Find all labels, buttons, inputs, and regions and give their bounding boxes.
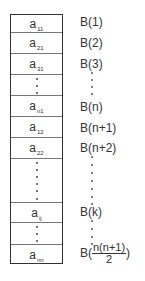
cell-subscript: 11 — [37, 26, 43, 32]
vertical-ellipsis-icon — [36, 161, 38, 201]
cell-an1: an1 — [11, 96, 62, 117]
cell-subscript: 22 — [37, 150, 44, 156]
cell-ellipsis — [11, 75, 62, 96]
cell-a11: a11 — [11, 15, 62, 33]
vertical-ellipsis-icon — [91, 156, 93, 206]
address-b1: B(1) — [80, 16, 103, 28]
cell-subscript: n1 — [37, 108, 44, 114]
cell-subscript: nn — [37, 257, 44, 263]
address-bk: B(k) — [80, 206, 102, 218]
cell-subscript: 12 — [37, 129, 44, 135]
cell-label: a — [29, 141, 36, 155]
cell-label: a — [29, 99, 36, 113]
cell-label: a — [31, 206, 38, 220]
cell-label: a — [29, 248, 36, 262]
cell-a31: a31 — [11, 54, 62, 75]
storage-array: a11 a21 a31 an1 a12 a22 aij ann — [10, 14, 63, 264]
vertical-ellipsis-icon — [36, 77, 38, 94]
vertical-ellipsis-icon — [36, 225, 38, 243]
cell-subscript: ij — [39, 215, 42, 221]
cell-a21: a21 — [11, 33, 62, 54]
address-b3: B(3) — [80, 58, 103, 70]
address-bn2: B(n+2) — [80, 142, 116, 154]
cell-subscript: 21 — [37, 45, 44, 51]
cell-a22: a22 — [11, 138, 62, 159]
cell-ellipsis — [11, 159, 62, 203]
cell-label: a — [29, 57, 36, 71]
cell-label: a — [30, 17, 37, 31]
address-bn1: B(n+1) — [80, 122, 116, 134]
cell-ellipsis — [11, 223, 62, 245]
fraction: n(n+1)2 — [92, 242, 126, 265]
address-last: B(n(n+1)2) — [80, 242, 130, 265]
cell-a12: a12 — [11, 117, 62, 138]
address-b2: B(2) — [80, 37, 103, 49]
cell-subscript: 31 — [37, 66, 44, 72]
cell-aij: aij — [11, 203, 62, 223]
cell-ann: ann — [11, 245, 62, 264]
address-bn: B(n) — [80, 101, 103, 113]
vertical-ellipsis-icon — [91, 72, 93, 96]
cell-label: a — [29, 36, 36, 50]
cell-label: a — [29, 120, 36, 134]
